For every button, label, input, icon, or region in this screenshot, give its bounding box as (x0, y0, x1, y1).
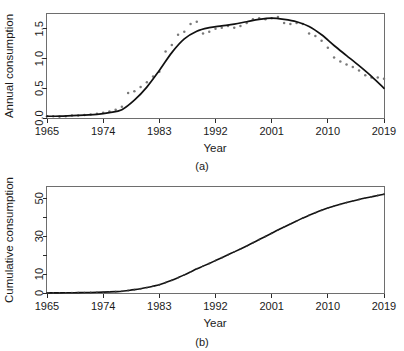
y-tick-label: 0 (33, 290, 45, 296)
x-tick-label: 2010 (316, 300, 340, 312)
data-point (358, 199, 360, 201)
data-point (308, 32, 311, 35)
x-tick-label: 1974 (91, 300, 115, 312)
panel-a-x-ticks (47, 119, 384, 124)
y-tick-label: 50 (33, 192, 45, 204)
data-point (321, 209, 323, 211)
panel-b-x-tick-labels: 1965197419831992200120102019 (35, 300, 396, 312)
data-point (202, 265, 204, 267)
data-point (352, 66, 355, 69)
data-point (102, 291, 104, 293)
data-point (358, 69, 361, 72)
y-tick-label: 1.0 (33, 51, 45, 66)
data-point (227, 254, 229, 256)
data-point (233, 251, 235, 253)
data-point (221, 257, 223, 259)
figure-container: 0.00.51.01.5 196519741983199220012010201… (0, 0, 404, 351)
panel-b-svg: 0103050 1965197419831992200120102019 Cum… (0, 176, 404, 351)
y-tick-label: 30 (33, 230, 45, 242)
data-point (171, 44, 174, 47)
data-point (90, 292, 92, 294)
x-tick-label: 1974 (91, 125, 115, 137)
data-point (252, 242, 254, 244)
data-point (246, 245, 248, 247)
data-point (190, 271, 192, 273)
data-point (121, 290, 123, 292)
data-point (277, 229, 279, 231)
data-point (327, 207, 329, 209)
data-point (302, 217, 304, 219)
data-point (146, 81, 149, 84)
x-tick-label: 1983 (147, 125, 171, 137)
data-point (121, 105, 124, 108)
data-point (139, 86, 142, 89)
data-point (208, 31, 211, 34)
y-tick-label: 0.5 (33, 81, 45, 96)
panel-b-cumulative-line (47, 194, 384, 293)
data-point (352, 200, 354, 202)
data-point (333, 205, 335, 207)
data-point (296, 220, 298, 222)
data-point (364, 74, 367, 77)
data-point (109, 291, 111, 293)
panel-b-data-points (46, 193, 385, 293)
data-point (377, 76, 380, 79)
panel-b-x-axis-title: Year (203, 317, 226, 329)
panel-b-y-tick-labels: 0103050 (33, 192, 45, 296)
x-tick-label: 1992 (203, 300, 227, 312)
panel-b-x-ticks (47, 294, 384, 299)
data-point (265, 236, 267, 238)
x-tick-label: 2019 (372, 125, 396, 137)
data-point (114, 108, 117, 111)
data-point (46, 292, 48, 294)
data-point (239, 25, 242, 28)
data-point (183, 274, 185, 276)
data-point (115, 291, 117, 293)
data-point (258, 239, 260, 241)
panel-b-y-axis-title: Cumulative consumption (3, 177, 15, 303)
data-point (346, 202, 348, 204)
data-point (164, 50, 167, 53)
y-tick-label: 0.0 (33, 110, 45, 125)
x-tick-label: 1965 (35, 125, 59, 137)
data-point (345, 63, 348, 66)
data-point (183, 31, 186, 34)
data-point (77, 292, 79, 294)
data-point (364, 197, 366, 199)
data-point (308, 214, 310, 216)
data-point (133, 90, 136, 93)
y-tick-label: 10 (33, 268, 45, 280)
panel-a-y-tick-labels: 0.00.51.01.5 (33, 21, 45, 125)
data-point (165, 282, 167, 284)
data-point (146, 287, 148, 289)
data-point (377, 195, 379, 197)
panel-a-data-points (46, 16, 386, 118)
data-point (208, 262, 210, 264)
data-point (171, 279, 173, 281)
data-point (140, 288, 142, 290)
data-point (96, 291, 98, 293)
data-point (383, 78, 386, 81)
data-point (333, 56, 336, 59)
data-point (339, 60, 342, 63)
data-point (71, 292, 73, 294)
panel-a-fit-line (47, 18, 384, 116)
data-point (65, 292, 67, 294)
data-point (289, 223, 291, 225)
x-tick-label: 1983 (147, 300, 171, 312)
data-point (271, 232, 273, 234)
x-tick-label: 2019 (372, 300, 396, 312)
chart-panel-a: 0.00.51.01.5 196519741983199220012010201… (0, 0, 404, 175)
data-point (127, 290, 129, 292)
panel-a-svg: 0.00.51.01.5 196519741983199220012010201… (0, 0, 404, 175)
data-point (314, 212, 316, 214)
data-point (127, 92, 130, 95)
data-point (283, 226, 285, 228)
x-tick-label: 2010 (316, 125, 340, 137)
chart-panel-b: 0103050 1965197419831992200120102019 Cum… (0, 176, 404, 351)
panel-b-frame (47, 187, 385, 294)
data-point (52, 292, 54, 294)
data-point (327, 47, 330, 50)
data-point (215, 260, 217, 262)
data-point (214, 28, 217, 31)
